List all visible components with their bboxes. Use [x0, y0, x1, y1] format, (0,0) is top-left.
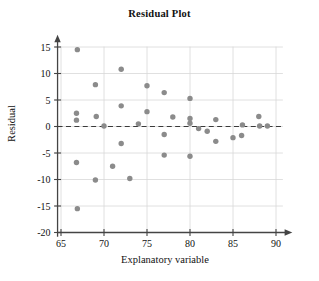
- y-tick-label: -20: [37, 227, 50, 238]
- data-point: [162, 152, 167, 157]
- x-tick-label: 65: [56, 238, 66, 249]
- residual-plot-figure: Residual Plot Residual Explanatory varia…: [0, 0, 319, 281]
- x-tick-label: 85: [228, 238, 238, 249]
- data-point: [239, 133, 244, 138]
- x-axis-label: Explanatory variable: [40, 254, 290, 265]
- data-point: [213, 117, 218, 122]
- data-point: [144, 83, 149, 88]
- data-point: [74, 160, 79, 165]
- data-point: [144, 109, 149, 114]
- y-tick-label: 5: [46, 95, 51, 106]
- y-axis-label: Residual: [6, 88, 17, 160]
- y-tick-label: -15: [37, 201, 50, 212]
- y-tick-label: -5: [42, 148, 50, 159]
- data-point: [74, 111, 79, 116]
- data-points: [74, 47, 270, 211]
- data-point: [170, 114, 175, 119]
- data-point: [74, 117, 79, 122]
- data-point: [256, 114, 261, 119]
- chart-title: Residual Plot: [0, 8, 319, 19]
- data-point: [257, 123, 262, 128]
- data-point: [101, 123, 106, 128]
- data-point: [127, 176, 132, 181]
- y-tick-label: 15: [41, 42, 51, 53]
- x-tick-label: 90: [271, 238, 281, 249]
- x-tick-label: 75: [142, 238, 152, 249]
- data-point: [119, 103, 124, 108]
- data-point: [136, 121, 141, 126]
- data-point: [93, 82, 98, 87]
- data-point: [162, 90, 167, 95]
- data-point: [205, 129, 210, 134]
- data-point: [119, 141, 124, 146]
- data-point: [93, 177, 98, 182]
- data-point: [110, 164, 115, 169]
- y-tick-label: -10: [37, 174, 50, 185]
- data-point: [230, 135, 235, 140]
- x-tick-label: 80: [185, 238, 195, 249]
- data-point: [75, 206, 80, 211]
- data-point: [265, 123, 270, 128]
- y-tick-label: 10: [41, 68, 51, 79]
- data-point: [196, 126, 201, 131]
- x-tick-label: 70: [99, 238, 109, 249]
- data-point: [187, 121, 192, 126]
- data-point: [187, 153, 192, 158]
- data-point: [240, 122, 245, 127]
- x-axis-arrow-icon: [285, 229, 293, 235]
- gridlines: [55, 47, 283, 233]
- data-point: [75, 47, 80, 52]
- data-point: [162, 132, 167, 137]
- data-point: [187, 116, 192, 121]
- plot-area: -20-15-10-5051015 657075808590: [0, 0, 319, 281]
- data-point: [213, 139, 218, 144]
- data-point: [119, 67, 124, 72]
- y-tick-label: 0: [46, 121, 51, 132]
- axis-lines: [54, 35, 292, 237]
- data-point: [187, 96, 192, 101]
- data-point: [94, 114, 99, 119]
- y-axis-arrow-icon: [54, 35, 60, 42]
